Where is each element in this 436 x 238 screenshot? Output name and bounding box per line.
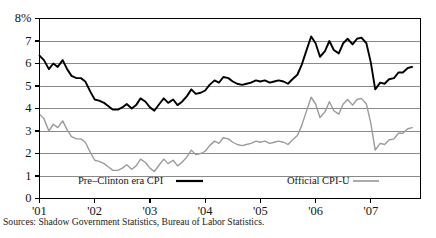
y-axis-tick-label: 4 [0,102,32,115]
chart-canvas [0,0,436,238]
y-axis-tick-label: 3 [0,125,32,138]
y-axis-tick-label: 0 [0,192,32,205]
y-axis-tick-label: 5 [0,80,32,93]
x-axis-tick-label: '06 [291,205,341,218]
source-note: Sources: Shadow Government Statistics, B… [3,217,264,227]
y-axis-tick-label: 6 [0,57,32,70]
x-axis-ticks [40,199,371,204]
gridlines [40,19,421,199]
x-axis-tick-label: '07 [346,205,396,218]
legend-item-pre-clinton-era-cpi: Pre–Clinton era CPI [78,176,163,187]
cpi-comparison-figure: 012345678% '01'02'03'04'05'06'07 Pre–Cli… [0,0,436,238]
y-axis-tick-label: 1 [0,170,32,183]
y-axis-tick-label: 8% [0,12,32,25]
legend-item-official-cpi-u: Official CPI-U [287,176,350,187]
data-series [40,37,413,172]
y-axis-tick-label: 7 [0,35,32,48]
y-axis-tick-label: 2 [0,147,32,160]
